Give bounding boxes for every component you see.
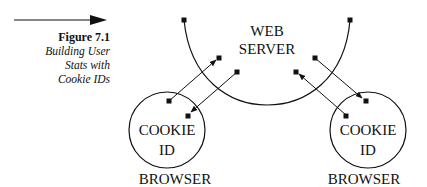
figure-caption: Figure 7.1 Building User Stats with Cook… — [10, 30, 110, 86]
left-browser-label: BROWSER — [139, 171, 212, 187]
right-browser-label: BROWSER — [328, 171, 401, 187]
server-label-line2: SERVER — [239, 41, 295, 57]
left-cookie-label-line1: COOKIE — [139, 122, 196, 138]
figure-label: Figure 7.1 — [10, 30, 110, 44]
caption-line: Stats with — [10, 58, 110, 72]
right-response-arrow — [313, 56, 369, 104]
right-cookie-label-line2: ID — [360, 142, 376, 158]
caption-pointer-arrow-icon — [14, 15, 107, 25]
caption-line: Building User — [10, 44, 110, 58]
left-cookie-label-line2: ID — [159, 142, 175, 158]
right-cookie-label-line1: COOKIE — [340, 122, 397, 138]
left-response-arrow — [186, 70, 240, 119]
diagram: WEB SERVER COOKIE ID BROWSER COOKIE ID B… — [0, 0, 427, 187]
right-request-arrow — [294, 70, 349, 119]
caption-line: Cookie IDs — [10, 72, 110, 86]
left-request-arrow — [167, 56, 222, 104]
server-label-line1: WEB — [250, 23, 283, 39]
